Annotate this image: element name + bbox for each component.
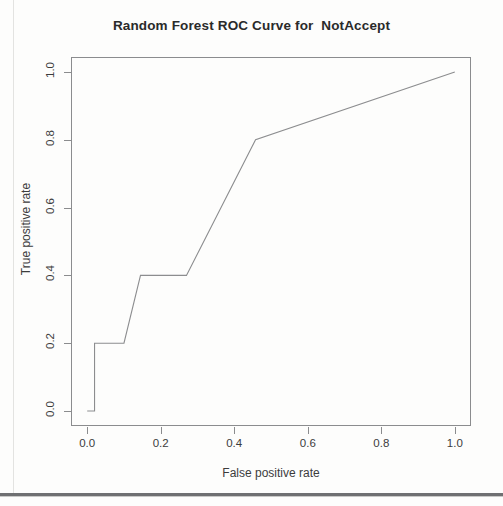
x-axis-tick — [87, 427, 88, 434]
chart-page: Random Forest ROC Curve for NotAccept 0.… — [0, 0, 503, 506]
y-axis-tick-label-text: 0.8 — [44, 130, 56, 146]
y-axis-tick-label-text: 1.0 — [44, 62, 56, 78]
x-axis-tick-label: 0.0 — [67, 437, 107, 449]
y-axis-tick — [64, 411, 71, 412]
y-axis-tick — [64, 140, 71, 141]
roc-curve-plot — [71, 57, 471, 426]
x-axis-tick-label: 0.2 — [141, 437, 181, 449]
y-axis-tick-label-text: 0.6 — [44, 198, 56, 214]
roc-curve-line — [87, 72, 455, 411]
x-axis-tick-label: 0.6 — [288, 437, 328, 449]
y-axis-tick — [64, 208, 71, 209]
x-axis-title: False positive rate — [71, 466, 471, 480]
chart-title: Random Forest ROC Curve for NotAccept — [0, 18, 503, 33]
x-axis-tick-label: 1.0 — [435, 437, 475, 449]
x-axis-tick-label: 0.8 — [361, 437, 401, 449]
y-axis-tick-label: 0.8 — [0, 132, 58, 144]
y-axis-tick-label-text: 0.2 — [44, 333, 56, 349]
scan-bottom-rule-shadow — [0, 496, 503, 497]
x-axis-tick — [308, 427, 309, 434]
y-axis-tick — [64, 343, 71, 344]
y-axis-title: True positive rate — [19, 159, 33, 299]
x-axis-tick — [381, 427, 382, 434]
y-axis-tick-label-text: 0.4 — [44, 265, 56, 281]
x-axis-tick — [455, 427, 456, 434]
y-axis-tick-label: 0.2 — [0, 335, 58, 347]
y-axis-tick — [64, 275, 71, 276]
x-axis-tick — [234, 427, 235, 434]
y-axis-tick-label: 1.0 — [0, 64, 58, 76]
y-axis-tick-label: 0.0 — [0, 403, 58, 415]
x-axis-tick-label: 0.4 — [214, 437, 254, 449]
x-axis-tick — [161, 427, 162, 434]
y-axis-tick-label-text: 0.0 — [44, 401, 56, 417]
y-axis-tick — [64, 72, 71, 73]
